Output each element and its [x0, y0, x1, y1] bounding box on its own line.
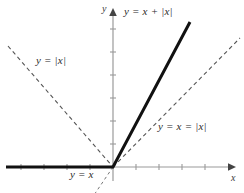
curve-label-y-equals-x: y = x: [70, 168, 94, 180]
curve-x-equals-abs-x-right-branch: [113, 38, 240, 167]
graph-canvas: [0, 0, 244, 193]
curve-label-x-plus-abs-x: y = x + |x|: [124, 5, 173, 17]
y-axis-label: y: [102, 3, 106, 14]
curve-y-equals-x-lower-branch: [94, 167, 113, 193]
curve-y-equals-x-plus-abs-x: [6, 22, 190, 167]
x-axis-label: x: [231, 172, 235, 183]
x-axis-arrowhead: [228, 163, 236, 171]
y-axis-arrowhead: [109, 8, 117, 16]
curve-label-x-equals-abs-x: y = x = |x|: [158, 120, 207, 132]
curve-label-abs-x: y = |x|: [36, 54, 66, 66]
graph-figure: y = x + |x| y = |x| y = x = |x| y = x y …: [0, 0, 244, 193]
